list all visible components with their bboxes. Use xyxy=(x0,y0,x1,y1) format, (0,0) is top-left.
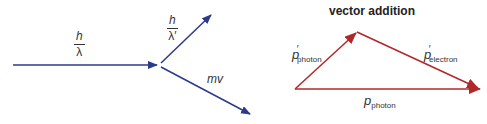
diagram-canvas xyxy=(0,0,487,124)
p-photon-prime-label: p′photon xyxy=(292,44,322,64)
electron-arrow xyxy=(161,67,250,114)
p-electron-prime-label: p′electron xyxy=(424,44,458,64)
scattered-momentum-label: h λ′ xyxy=(167,14,178,43)
electron-momentum-label: mv xyxy=(207,72,223,86)
p-electron-prime-arrow xyxy=(357,32,478,88)
incident-momentum-label: h λ xyxy=(74,30,85,59)
diagram-title: vector addition xyxy=(329,4,415,18)
p-photon-label: pphoton xyxy=(364,93,396,110)
